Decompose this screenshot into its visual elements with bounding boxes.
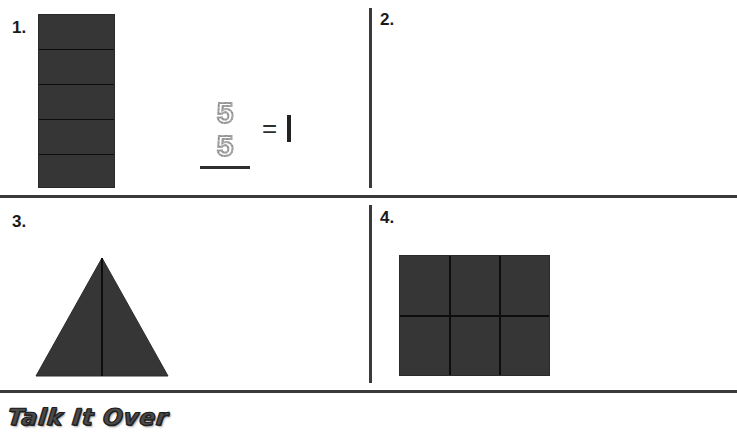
- problem-2-number: 2.: [380, 10, 394, 30]
- problem-1-fraction[interactable]: 5 5: [196, 98, 254, 172]
- problem-1-result-one: [287, 115, 291, 142]
- problem-4-shape-square-sixths: [399, 255, 550, 376]
- divider-line: [39, 84, 114, 85]
- divider-line: [39, 49, 114, 50]
- problem-1-numerator[interactable]: 5: [196, 98, 254, 128]
- problem-3-shape-triangle-halves: [34, 256, 170, 378]
- problem-1-answer: 5 5 =: [196, 98, 291, 172]
- worksheet-page: 1. 5 5 = 2.: [0, 0, 737, 444]
- problem-4: 4. =: [372, 198, 737, 390]
- problem-1: 1. 5 5 =: [0, 0, 369, 195]
- problem-1-denominator[interactable]: 5: [196, 131, 254, 161]
- problem-1-equals-sign: =: [262, 115, 277, 141]
- horizontal-divider-bottom: [0, 390, 737, 393]
- divider-line: [39, 119, 114, 120]
- problem-3: 3. =: [0, 198, 369, 390]
- problem-4-number: 4.: [380, 208, 394, 228]
- problem-1-shape-rectangle-fifths: [38, 14, 115, 188]
- problem-1-number: 1.: [12, 18, 26, 38]
- problem-2: 2. =: [372, 0, 737, 195]
- divider-line: [400, 315, 549, 317]
- divider-line: [39, 154, 114, 155]
- problem-3-number: 3.: [12, 212, 26, 232]
- talk-it-over-banner: Talk It Over: [7, 404, 170, 430]
- problem-1-fraction-bar: [200, 166, 250, 169]
